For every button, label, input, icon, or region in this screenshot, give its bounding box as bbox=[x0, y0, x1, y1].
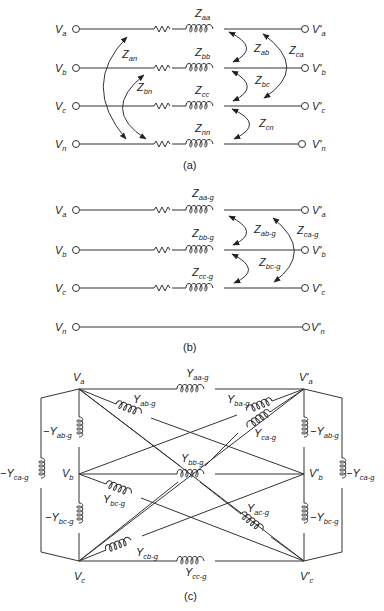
caption-a: (a) bbox=[183, 159, 196, 171]
line-n bbox=[73, 140, 306, 148]
label-yaa-g: Yaa-g bbox=[186, 367, 209, 382]
part-c-network bbox=[39, 385, 346, 565]
arrow-zbc bbox=[232, 71, 247, 101]
label-zab: Zab bbox=[253, 42, 269, 57]
arrow-zab-g bbox=[229, 216, 247, 245]
label-yac-g: Yac-g bbox=[247, 502, 270, 517]
label-vn: Vn bbox=[55, 138, 67, 153]
label-neg-ybc-g-right: −Ybc-g bbox=[310, 511, 339, 526]
label-neg-yab-g-left: −Yab-g bbox=[43, 425, 73, 440]
label-yab-g: Yab-g bbox=[133, 393, 156, 408]
svg-text:Vn: Vn bbox=[55, 321, 67, 336]
line-a-b bbox=[73, 206, 309, 214]
label-vpn: V'n bbox=[312, 138, 326, 153]
label-zaa-g: Zaa-g bbox=[191, 187, 215, 202]
label-vb: Vb bbox=[55, 62, 67, 77]
label-neg-yab-g-right: −Yab-g bbox=[310, 425, 340, 440]
svg-text:V'c: V'c bbox=[300, 570, 313, 585]
label-zcc-g: Zcc-g bbox=[191, 266, 214, 281]
label-va: Va bbox=[55, 23, 67, 38]
arrow-zbc-g bbox=[232, 254, 249, 283]
label-vpb: V'b bbox=[312, 62, 326, 77]
label-neg-ybc-g-left: −Ybc-g bbox=[45, 511, 74, 526]
terminal-va bbox=[73, 26, 80, 33]
label-vpc: V'c bbox=[312, 100, 325, 115]
label-znn: Znn bbox=[194, 122, 210, 137]
svg-text:Va: Va bbox=[55, 204, 67, 219]
caption-c: (c) bbox=[184, 590, 197, 602]
label-zan: Zan bbox=[121, 48, 137, 63]
label-ybc-g: Ybc-g bbox=[103, 493, 126, 508]
line-n-b bbox=[73, 324, 310, 331]
label-zca-g: Zca-g bbox=[296, 224, 319, 239]
label-vc: Vc bbox=[55, 100, 66, 115]
label-zbn: Zbn bbox=[136, 81, 152, 96]
arrow-zcn bbox=[232, 109, 250, 139]
svg-text:V'c: V'c bbox=[312, 282, 325, 297]
svg-text:Vb: Vb bbox=[55, 244, 67, 259]
label-zaa: Zaa bbox=[194, 7, 210, 22]
label-yca-g: Yca-g bbox=[254, 427, 277, 442]
label-ycb-g: Ycb-g bbox=[136, 546, 159, 561]
label-neg-yca-g-left: −Yca-g bbox=[0, 467, 29, 482]
label-ycc-g: Ycc-g bbox=[185, 566, 207, 581]
label-zbb: Zbb bbox=[194, 46, 210, 61]
svg-text:V'a: V'a bbox=[299, 371, 313, 386]
label-zbb-g: Zbb-g bbox=[191, 227, 215, 242]
label-neg-yca-g-right: −Yca-g bbox=[346, 467, 375, 482]
line-c-b bbox=[73, 284, 309, 292]
line-b-b bbox=[73, 246, 309, 254]
terminal-vpa bbox=[302, 26, 309, 33]
svg-text:Va: Va bbox=[73, 371, 85, 386]
line-a bbox=[73, 25, 309, 33]
part-c-labels: Va V'a Vb V'b Vc V'c Yaa-g Ybb-g Ycc-g Y… bbox=[0, 367, 375, 602]
arrow-zab bbox=[229, 32, 247, 62]
label-zbc-g: Zbc-g bbox=[258, 256, 281, 271]
label-yba-g: Yba-g bbox=[227, 393, 250, 408]
svg-text:Vc: Vc bbox=[55, 282, 66, 297]
label-zcn: Zcn bbox=[258, 117, 274, 132]
svg-text:Vb: Vb bbox=[62, 467, 74, 482]
svg-text:V'n: V'n bbox=[311, 321, 325, 336]
svg-text:Vc: Vc bbox=[74, 570, 85, 585]
three-phase-line-model-figure: Va Vb Vc Vn V'a V'b V'c V'n Zaa Zbb Zcc … bbox=[0, 0, 384, 611]
label-zca: Zca bbox=[288, 44, 304, 59]
label-ybb-g: Ybb-g bbox=[181, 452, 204, 467]
label-zbc: Zbc bbox=[254, 74, 270, 89]
line-c bbox=[73, 102, 309, 110]
svg-text:V'b: V'b bbox=[309, 467, 323, 482]
svg-text:V'b: V'b bbox=[312, 244, 326, 259]
caption-b: (b) bbox=[183, 341, 196, 353]
label-zcc: Zcc bbox=[194, 84, 209, 99]
label-zab-g: Zab-g bbox=[253, 223, 277, 238]
label-vpa: V'a bbox=[312, 23, 326, 38]
svg-text:V'a: V'a bbox=[312, 204, 326, 219]
